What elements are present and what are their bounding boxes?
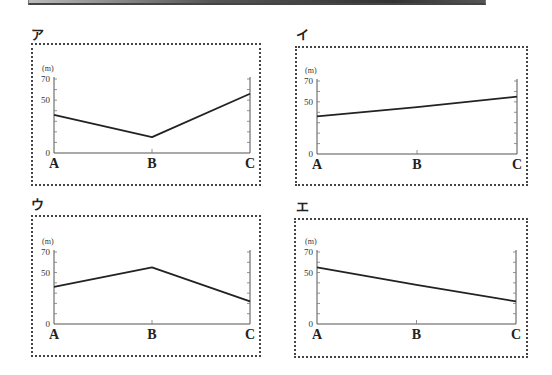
y-axis-unit: (m) (305, 66, 317, 75)
x-category-label: A (312, 327, 323, 342)
chart-panel-u: (m)05070ABC (31, 215, 261, 357)
x-category-label: B (147, 156, 156, 171)
y-tick-label: 70 (304, 76, 314, 86)
x-category-label: B (147, 327, 156, 342)
line-chart: (m)05070ABC (297, 48, 526, 184)
x-category-label: C (245, 327, 255, 342)
panel-label-a: ア (31, 24, 44, 43)
chart-panel-a: (m)05070ABC (31, 43, 261, 186)
x-category-label: A (49, 327, 60, 342)
panel-label-e: エ (296, 196, 309, 215)
panel-label-i: イ (296, 24, 309, 43)
elevation-line (54, 267, 250, 301)
x-category-label: C (245, 156, 255, 171)
x-category-label: C (511, 327, 521, 342)
x-category-label: C (512, 157, 522, 172)
top-border-bar (28, 0, 486, 5)
x-category-label: A (312, 157, 323, 172)
y-tick-label: 50 (41, 268, 51, 278)
y-axis-unit: (m) (42, 64, 54, 73)
line-chart: (m)05070ABC (33, 45, 259, 184)
line-chart: (m)05070ABC (296, 220, 526, 356)
chart-panel-e: (m)05070ABC (294, 218, 528, 358)
y-tick-label: 50 (304, 268, 314, 278)
y-axis-unit: (m) (305, 237, 317, 246)
x-category-label: A (49, 156, 60, 171)
x-category-label: B (412, 157, 421, 172)
y-tick-label: 50 (41, 95, 51, 105)
y-tick-label: 70 (304, 247, 314, 257)
y-tick-label: 70 (41, 247, 51, 257)
x-category-label: B (412, 327, 421, 342)
elevation-line (54, 94, 250, 137)
elevation-line (317, 267, 516, 301)
line-chart: (m)05070ABC (33, 217, 259, 355)
y-axis-unit: (m) (42, 237, 54, 246)
elevation-line (317, 97, 517, 117)
y-tick-label: 70 (41, 74, 51, 84)
panel-label-u: ウ (31, 194, 44, 213)
y-tick-label: 50 (304, 97, 314, 107)
chart-panel-i: (m)05070ABC (295, 46, 528, 186)
